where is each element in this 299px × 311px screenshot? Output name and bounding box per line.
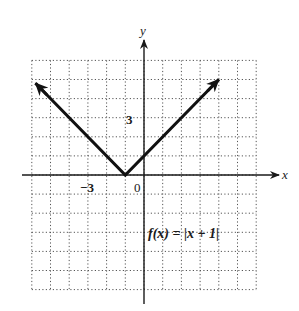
- svg-text:f(x) = |x + 1|: f(x) = |x + 1|: [148, 226, 219, 242]
- left-arrowhead-icon: [36, 83, 47, 94]
- tick-label-3: 3: [126, 112, 133, 127]
- function-curve: [36, 80, 219, 176]
- y-axis-label: y: [138, 23, 146, 38]
- function-equals: =: [169, 226, 184, 241]
- origin-label: 0: [134, 180, 141, 195]
- tick-label-neg3: −3: [80, 180, 94, 195]
- function-label: f(x) = |x + 1|: [148, 226, 219, 242]
- function-arg: (x): [153, 226, 169, 242]
- x-axis-label: x: [281, 167, 288, 182]
- right-arrowhead-icon: [208, 80, 219, 91]
- absolute-value-graph: y x −3 3 0 f(x) = |x + 1|: [0, 0, 299, 311]
- function-body: |x + 1|: [184, 226, 219, 241]
